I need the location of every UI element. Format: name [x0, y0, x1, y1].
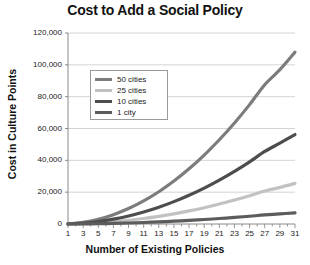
- x-tick-label: 17: [181, 229, 197, 238]
- x-tick-label: 21: [211, 229, 227, 238]
- y-tick-label: 80,000: [16, 92, 62, 101]
- x-tick-label: 3: [75, 229, 91, 238]
- x-tick-label: 27: [257, 229, 273, 238]
- x-tick-label: 11: [136, 229, 152, 238]
- x-tick-label: 1: [60, 229, 76, 238]
- legend-item[interactable]: 50 cities: [95, 74, 163, 85]
- legend-swatch-icon: [95, 111, 112, 114]
- legend-item[interactable]: 25 cities: [95, 85, 163, 96]
- legend-item-label: 50 cities: [117, 75, 146, 84]
- legend-item-label: 1 city: [117, 108, 136, 117]
- chart-container: Cost to Add a Social Policy Cost in Cult…: [0, 0, 310, 265]
- x-tick-label: 19: [196, 229, 212, 238]
- x-tick-label: 13: [151, 229, 167, 238]
- legend-swatch-icon: [95, 78, 112, 81]
- series-line-10-cities: [68, 135, 295, 224]
- x-tick-label: 9: [121, 229, 137, 238]
- y-tick-label: 40,000: [16, 155, 62, 164]
- x-tick-label: 31: [287, 229, 303, 238]
- y-tick-label: 120,000: [16, 28, 62, 37]
- legend-swatch-icon: [95, 89, 112, 92]
- x-axis-title: Number of Existing Policies: [0, 243, 310, 255]
- x-tick-label: 25: [242, 229, 258, 238]
- legend-swatch-icon: [95, 100, 112, 103]
- y-tick-label: 0: [16, 219, 62, 228]
- legend-item[interactable]: 10 cities: [95, 96, 163, 107]
- y-tick-label: 100,000: [16, 60, 62, 69]
- y-tick-label: 60,000: [16, 124, 62, 133]
- legend-item-label: 25 cities: [117, 86, 146, 95]
- legend-item[interactable]: 1 city: [95, 107, 163, 118]
- x-tick-label: 29: [272, 229, 288, 238]
- chart-legend: 50 cities25 cities10 cities1 city: [90, 70, 168, 120]
- legend-item-label: 10 cities: [117, 97, 146, 106]
- y-tick-label: 20,000: [16, 187, 62, 196]
- x-tick-label: 5: [90, 229, 106, 238]
- x-tick-label: 15: [166, 229, 182, 238]
- x-tick-label: 7: [105, 229, 121, 238]
- x-tick-label: 23: [226, 229, 242, 238]
